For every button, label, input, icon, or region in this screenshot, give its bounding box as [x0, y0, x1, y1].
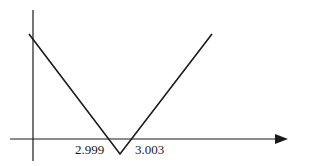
right-root-label: 3.003 — [135, 143, 164, 156]
x-axis-arrow-icon — [275, 134, 288, 144]
left-root-label: 2.999 — [75, 143, 104, 156]
v-graph-line — [29, 34, 212, 154]
